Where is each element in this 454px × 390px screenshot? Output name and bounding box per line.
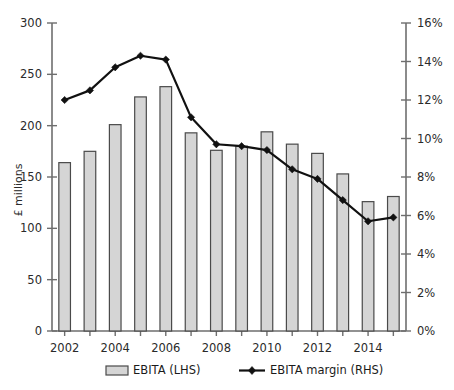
y-axis-left-tick-label: 50 — [27, 273, 42, 287]
y-axis-right-tick-label: 0% — [417, 324, 435, 338]
y-axis-left-tick-label: 0 — [35, 324, 42, 338]
y-axis-left-tick-label: 200 — [20, 119, 42, 133]
chart-svg: 050100150200250300 0%2%4%6%8%10%12%14%16… — [0, 0, 454, 390]
legend-label-ebita: EBITA (LHS) — [133, 363, 201, 377]
x-axis-tick-label: 2006 — [151, 341, 180, 355]
y-axis-right-tick-label: 8% — [417, 170, 435, 184]
legend-label-ebita-margin: EBITA margin (RHS) — [270, 363, 383, 377]
x-axis-ticks: 2002200420062008201020122014 — [50, 331, 393, 355]
y-axis-right-tick-label: 10% — [417, 132, 443, 146]
line-marker-diamond-icon — [61, 96, 68, 103]
y-axis-right-tick-label: 16% — [417, 16, 443, 30]
y-axis-left-tick-label: 250 — [20, 67, 42, 81]
bar — [59, 163, 71, 331]
y-axis-left-label: £ millions — [12, 163, 25, 216]
x-axis-tick-label: 2004 — [101, 341, 130, 355]
y-axis-right-tick-label: 14% — [417, 55, 443, 69]
y-axis-right-tick-label: 6% — [417, 209, 435, 223]
chart-container: 050100150200250300 0%2%4%6%8%10%12%14%16… — [0, 0, 454, 390]
legend: EBITA (LHS) EBITA margin (RHS) — [106, 363, 383, 377]
y-axis-right-ticks: 0%2%4%6%8%10%12%14%16% — [401, 16, 443, 338]
bar — [109, 125, 121, 331]
y-axis-right-tick-label: 2% — [417, 286, 435, 300]
y-axis-right-tick-label: 4% — [417, 247, 435, 261]
bar — [211, 150, 223, 331]
bar — [261, 132, 273, 331]
x-axis-tick-label: 2010 — [252, 341, 281, 355]
legend-swatch-ebita — [106, 366, 128, 375]
x-axis-tick-label: 2014 — [353, 341, 382, 355]
y-axis-right-tick-label: 12% — [417, 93, 443, 107]
bar — [135, 97, 147, 331]
x-axis-tick-label: 2008 — [202, 341, 231, 355]
bar — [84, 151, 96, 331]
line-marker-diamond-icon — [137, 52, 144, 59]
y-axis-left-tick-label: 100 — [20, 221, 42, 235]
legend-marker-diamond-icon — [248, 367, 255, 375]
bar — [236, 146, 248, 331]
bar — [160, 87, 172, 331]
x-axis-tick-label: 2012 — [303, 341, 332, 355]
bar — [185, 133, 197, 331]
bar-series-ebita — [59, 87, 399, 331]
line-marker-diamond-icon — [162, 56, 169, 63]
x-axis-tick-label: 2002 — [50, 341, 79, 355]
y-axis-left-tick-label: 300 — [20, 16, 42, 30]
